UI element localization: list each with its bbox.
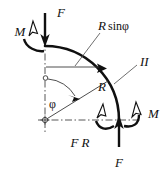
bottom-right-moment-curve xyxy=(124,115,139,127)
angle-arc xyxy=(48,79,75,96)
radius-label: R xyxy=(97,79,106,94)
moment-top-left-label: M xyxy=(14,24,27,39)
section-leader xyxy=(114,65,137,84)
r-sin-phi-label-rest: sinφ xyxy=(108,19,129,33)
top-left-moment-curve xyxy=(24,39,44,51)
section-label: II xyxy=(139,54,149,69)
moment-bottom-left-label: F R xyxy=(69,135,89,150)
angle-label: φ xyxy=(49,97,56,111)
force-top-label: F xyxy=(56,5,66,20)
r-sin-phi-leader xyxy=(75,33,100,66)
force-bottom-label: F xyxy=(114,155,124,170)
top-left-moment-arrowhead xyxy=(29,21,38,36)
r-sin-phi-label-r: R xyxy=(97,18,106,33)
angle-arc-arrowhead xyxy=(68,95,80,102)
bottom-right-moment-arrowhead xyxy=(132,102,141,117)
bottom-left-moment-arrowhead xyxy=(97,104,106,118)
figure-canvas: M F R sinφ R II φ F R F M xyxy=(0,0,166,172)
bottom-left-moment-curve xyxy=(96,121,114,129)
mechanics-diagram: M F R sinφ R II φ F R F M xyxy=(0,0,166,172)
moment-bottom-right-label: M xyxy=(147,106,160,121)
angle-arc-pivot-marker xyxy=(43,76,48,81)
